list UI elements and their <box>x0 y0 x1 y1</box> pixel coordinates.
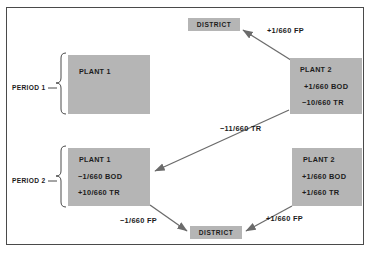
period-2-brace <box>48 146 66 207</box>
node-plant2-period1[interactable]: PLANT 2 +1/660 BOD −10/660 TR <box>290 58 362 114</box>
node-plant1-period2[interactable]: PLANT 1 −1/660 BOD +10/660 TR <box>68 148 150 206</box>
node-plant1-period2-title: PLANT 1 <box>79 155 111 164</box>
arrow-p1-plant2-to-p2-plant1 <box>155 110 289 171</box>
node-plant1-period2-line-1: −1/660 BOD <box>78 172 122 181</box>
node-plant2-period1-line-1: +1/660 BOD <box>304 82 348 91</box>
edge-label-p2-plant2-to-district: +1/660 FP <box>266 214 303 223</box>
node-plant2-period1-title: PLANT 2 <box>300 65 332 74</box>
flow-arrows-layer <box>0 0 372 253</box>
node-plant2-period2[interactable]: PLANT 2 +1/660 BOD +1/660 TR <box>292 148 362 206</box>
node-plant2-period1-line-2: −10/660 TR <box>302 98 344 107</box>
node-plant2-period2-line-1: +1/660 BOD <box>302 172 346 181</box>
figure-canvas: PERIOD 1 PERIOD 2 DISTRICT PLANT 1 PLANT… <box>0 0 372 253</box>
period-2-label: PERIOD 2 <box>12 177 46 184</box>
node-plant2-period2-line-2: +1/660 TR <box>302 188 339 197</box>
edge-label-p1-plant2-to-district: +1/660 FP <box>267 26 304 35</box>
node-district-top[interactable]: DISTRICT <box>188 18 240 31</box>
node-district-bottom[interactable]: DISTRICT <box>190 226 242 239</box>
period-1-label: PERIOD 1 <box>12 84 46 91</box>
node-plant1-period1[interactable]: PLANT 1 <box>68 55 150 114</box>
edge-label-p1-plant2-to-p2-plant1: −11/660 TR <box>220 124 261 133</box>
node-plant1-period1-title: PLANT 1 <box>79 67 111 76</box>
node-plant2-period2-title: PLANT 2 <box>303 155 335 164</box>
edge-label-p2-plant1-to-district: −1/660 FP <box>120 216 157 225</box>
node-plant1-period2-line-2: +10/660 TR <box>78 188 120 197</box>
period-1-brace <box>48 53 66 114</box>
